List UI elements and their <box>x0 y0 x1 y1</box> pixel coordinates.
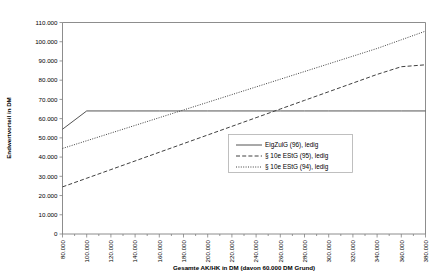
chart-canvas: 010.00020.00030.00040.00050.00060.00070.… <box>0 0 448 276</box>
x-tick-label: 300.000 <box>325 239 332 262</box>
x-tick-label: 380.000 <box>422 239 429 262</box>
x-tick-label: 100.000 <box>83 239 90 262</box>
legend-item-label[interactable]: § 10e EStG (94), ledig <box>265 163 329 171</box>
y-tick-label: 50.000 <box>39 134 58 141</box>
x-tick-label: 260.000 <box>277 239 284 262</box>
x-tick-label: 160.000 <box>156 239 163 262</box>
y-tick-label: 10.000 <box>39 211 58 218</box>
y-tick-label: 90.000 <box>39 57 58 64</box>
x-tick-label: 280.000 <box>301 239 308 262</box>
y-tick-label: 70.000 <box>39 96 58 103</box>
x-tick-label: 220.000 <box>228 239 235 262</box>
x-tick-label: 120.000 <box>107 239 114 262</box>
x-tick-label: 240.000 <box>252 239 259 262</box>
plot-area <box>63 23 426 235</box>
y-axis-ticks: 010.00020.00030.00040.00050.00060.00070.… <box>35 19 62 238</box>
x-tick-label: 360.000 <box>398 239 405 262</box>
legend-item-label[interactable]: § 10e EStG (95), ledig <box>265 152 329 160</box>
x-tick-label: 320.000 <box>349 239 356 262</box>
y-tick-label: 40.000 <box>39 153 58 160</box>
x-axis-ticks: 80.000100.000120.000140.000160.000180.00… <box>59 234 429 262</box>
y-tick-label: 0 <box>54 230 58 237</box>
plot-background <box>63 23 426 235</box>
y-tick-label: 30.000 <box>39 173 58 180</box>
x-tick-label: 140.000 <box>131 239 138 262</box>
y-tick-label: 60.000 <box>39 115 58 122</box>
x-axis-title: Gesamte AK/HK in DM (davon 60.000 DM Gru… <box>173 264 315 271</box>
legend-item-label[interactable]: EigZulG (96), ledig <box>265 141 319 149</box>
y-tick-label: 80.000 <box>39 76 58 83</box>
y-tick-label: 110.000 <box>36 19 58 26</box>
y-tick-label: 20.000 <box>39 192 58 199</box>
chart-legend[interactable]: EigZulG (96), ledig§ 10e EStG (95), ledi… <box>229 135 353 173</box>
line-chart: 010.00020.00030.00040.00050.00060.00070.… <box>0 0 448 276</box>
x-tick-label: 200.000 <box>204 239 211 262</box>
y-tick-label: 100.000 <box>35 38 58 45</box>
y-axis-title: Endwertvorteil in DM <box>5 97 12 159</box>
x-tick-label: 80.000 <box>59 239 66 258</box>
x-tick-label: 180.000 <box>180 239 187 262</box>
x-tick-label: 340.000 <box>373 239 380 262</box>
